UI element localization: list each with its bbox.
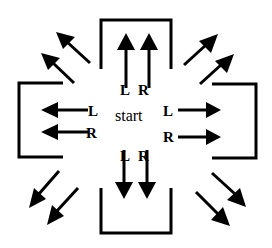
right-bracket: [212, 84, 256, 158]
label-right-top: L: [163, 103, 173, 119]
diagonal-up-left-inner-icon: [41, 53, 74, 83]
left-bracket: [19, 83, 63, 157]
diagonal-up-right-outer-icon: [184, 34, 218, 65]
bottom-bracket: [101, 188, 171, 233]
label-down-left: L: [120, 148, 130, 164]
diagonal-up-right-inner-icon: [200, 54, 234, 84]
top-bracket: [101, 20, 171, 69]
label-up-right: R: [138, 82, 149, 98]
left-arrow-top-icon: [41, 102, 88, 118]
direction-diagram: L R L R L R L R start: [0, 0, 272, 248]
right-arrow-top-icon: [178, 102, 221, 118]
diagonal-down-right-outer-icon: [212, 173, 246, 207]
start-label: start: [115, 107, 143, 124]
label-right-bottom: R: [163, 129, 174, 145]
diagonal-up-left-outer-icon: [56, 32, 90, 63]
right-arrow-bottom-icon: [178, 129, 221, 145]
label-down-right: R: [138, 148, 149, 164]
left-arrow-bottom-icon: [41, 124, 88, 140]
diagonal-down-left-inner-icon: [47, 188, 78, 225]
label-left-top: L: [88, 103, 98, 119]
diagonal-down-right-inner-icon: [196, 192, 230, 226]
label-up-left: L: [120, 82, 130, 98]
up-arrow-left-icon: [117, 33, 135, 88]
diagonal-down-left-outer-icon: [29, 171, 59, 208]
label-left-bottom: R: [86, 125, 97, 141]
up-arrow-right-icon: [140, 33, 158, 88]
